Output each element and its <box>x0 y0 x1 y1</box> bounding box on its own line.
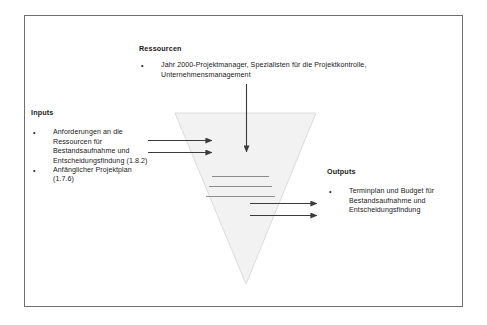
outputs-bullet-text: Terminplan und Budget für Bestandsaufnah… <box>349 187 461 215</box>
inputs-section: Inputs • Anforderungen an die Ressourcen… <box>31 108 156 185</box>
ressourcen-heading: Ressourcen <box>139 44 399 53</box>
ressourcen-bullet-text: Jahr 2000-Projektmanager, Spezialisten f… <box>161 61 399 80</box>
bullet-icon: • <box>31 166 53 175</box>
list-item: • Terminplan und Budget für Bestandsaufn… <box>327 187 467 215</box>
ressourcen-section: Ressourcen • Jahr 2000-Projektmanager, S… <box>139 44 399 80</box>
bullet-icon: • <box>327 187 349 196</box>
list-item: • Anforderungen an die Ressourcen für Be… <box>31 128 156 166</box>
inputs-heading: Inputs <box>31 108 156 117</box>
process-funnel <box>175 113 316 284</box>
outputs-heading: Outputs <box>327 167 467 176</box>
list-item: • Jahr 2000-Projektmanager, Spezialisten… <box>139 61 399 80</box>
list-item: • Anfänglicher Projektplan (1.7.6) <box>31 166 156 185</box>
inputs-bullet-text: Anfänglicher Projektplan (1.7.6) <box>53 166 148 185</box>
outputs-bullet-list: • Terminplan und Budget für Bestandsaufn… <box>327 187 467 215</box>
bullet-icon: • <box>139 61 161 70</box>
ressourcen-bullet-list: • Jahr 2000-Projektmanager, Spezialisten… <box>139 61 399 80</box>
inputs-bullet-list: • Anforderungen an die Ressourcen für Be… <box>31 128 156 184</box>
inputs-bullet-text: Anforderungen an die Ressourcen für Best… <box>53 128 148 166</box>
bullet-icon: • <box>31 128 53 137</box>
outputs-section: Outputs • Terminplan und Budget für Best… <box>327 167 467 216</box>
